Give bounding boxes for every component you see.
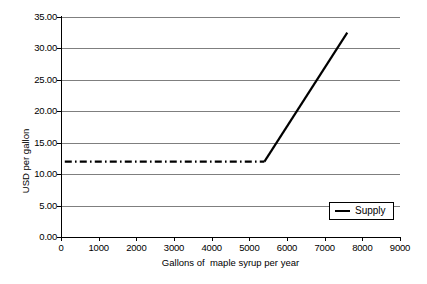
y-tick-label: 5.00 <box>11 201 57 211</box>
y-tick-mark <box>57 111 61 112</box>
y-tick-label: 35.00 <box>11 12 57 22</box>
x-tick-mark <box>400 237 401 241</box>
x-tick-label: 1000 <box>79 243 119 253</box>
x-tick-mark <box>325 237 326 241</box>
y-tick-mark <box>57 143 61 144</box>
y-axis-title: USD per gallon <box>21 109 31 213</box>
x-axis-line <box>60 237 401 238</box>
x-tick-label: 5000 <box>229 243 269 253</box>
legend: Supply <box>329 202 394 220</box>
y-axis-line <box>61 16 62 238</box>
x-tick-label: 3000 <box>154 243 194 253</box>
x-tick-label: 2000 <box>116 243 156 253</box>
x-tick-mark <box>136 237 137 241</box>
x-axis-title: Gallons of maple syrup per year <box>61 258 400 268</box>
y-tick-label: 30.00 <box>11 43 57 53</box>
x-tick-label: 7000 <box>305 243 345 253</box>
x-tick-mark <box>362 237 363 241</box>
x-tick-label: 9000 <box>380 243 420 253</box>
legend-line-marker <box>335 210 350 212</box>
y-axis-title-holder: USD per gallon <box>10 60 24 180</box>
gridline-y <box>61 17 400 18</box>
x-tick-mark <box>249 237 250 241</box>
x-tick-mark <box>212 237 213 241</box>
y-tick-label: 0.00 <box>11 232 57 242</box>
gridline-y <box>61 111 400 112</box>
x-tick-label: 4000 <box>192 243 232 253</box>
gridline-y <box>61 174 400 175</box>
y-tick-mark <box>57 48 61 49</box>
x-tick-label: 0 <box>41 243 81 253</box>
x-tick-mark <box>174 237 175 241</box>
y-tick-mark <box>57 80 61 81</box>
x-tick-mark <box>287 237 288 241</box>
supply-curve-chart: 0.005.0010.0015.0020.0025.0030.0035.00 0… <box>0 0 427 284</box>
x-tick-mark <box>61 237 62 241</box>
x-tick-label: 6000 <box>267 243 307 253</box>
legend-label-supply: Supply <box>355 205 386 216</box>
x-tick-mark <box>99 237 100 241</box>
y-tick-mark <box>57 174 61 175</box>
x-tick-label: 8000 <box>342 243 382 253</box>
gridline-y <box>61 143 400 144</box>
gridline-y <box>61 80 400 81</box>
y-tick-mark <box>57 17 61 18</box>
gridline-y <box>61 48 400 49</box>
y-tick-mark <box>57 206 61 207</box>
